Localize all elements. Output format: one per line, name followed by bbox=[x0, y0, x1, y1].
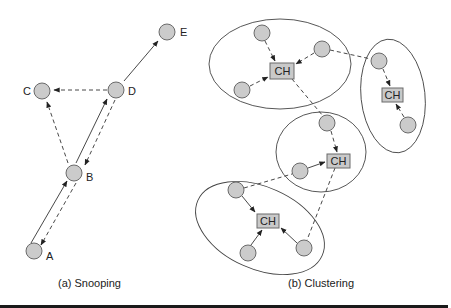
edge-bottom-n3-to-ch bbox=[281, 228, 297, 243]
edge-top-n1-to-ch bbox=[265, 41, 275, 61]
cluster-top-head-label: CH bbox=[275, 65, 291, 77]
node-a bbox=[26, 243, 42, 259]
edge-middle-n1-to-ch bbox=[331, 131, 337, 152]
cluster-bottom-head-label: CH bbox=[260, 215, 276, 227]
node-c bbox=[34, 83, 50, 99]
edge-a-to-b bbox=[31, 181, 67, 243]
cluster-middle-node-1 bbox=[319, 115, 335, 131]
cluster-bottom-node-3 bbox=[296, 240, 312, 256]
node-c-label: C bbox=[23, 85, 31, 97]
cluster-bottom-node-2 bbox=[240, 245, 256, 261]
cluster-right-head-label: CH bbox=[385, 89, 401, 101]
edge-b-to-d bbox=[76, 99, 107, 163]
edge-b-to-a bbox=[41, 183, 76, 245]
link-bottom-to-middle bbox=[244, 174, 292, 188]
cluster-top-node-2 bbox=[314, 41, 330, 57]
clustering-diagram: CH CH CH CH (b) Clustering bbox=[181, 19, 431, 293]
edge-b-to-c bbox=[47, 102, 68, 163]
edge-bottom-n1-to-ch bbox=[242, 196, 255, 212]
cluster-right-node-1 bbox=[371, 53, 387, 69]
edge-top-n2-to-ch bbox=[296, 53, 314, 64]
caption-clustering: (b) Clustering bbox=[288, 277, 354, 289]
node-b bbox=[66, 165, 82, 181]
cluster-top-node-1 bbox=[254, 25, 270, 41]
edge-d-to-b bbox=[85, 100, 115, 165]
cluster-top-node-3 bbox=[234, 82, 250, 98]
edge-d-to-e bbox=[124, 41, 158, 81]
link-top-ch-to-middle bbox=[292, 79, 323, 116]
edge-middle-n2-to-ch bbox=[308, 162, 325, 168]
cluster-middle-head-label: CH bbox=[331, 155, 347, 167]
node-b-label: B bbox=[86, 171, 93, 183]
snooping-diagram: A B C D E (a) Snooping bbox=[23, 24, 187, 289]
edge-top-n3-to-ch bbox=[250, 77, 268, 86]
node-e-label: E bbox=[180, 26, 187, 38]
cluster-right-node-2 bbox=[400, 117, 416, 133]
network-diagram: A B C D E (a) Snooping CH CH bbox=[0, 0, 451, 308]
cluster-bottom-node-1 bbox=[228, 182, 244, 198]
node-d-label: D bbox=[128, 85, 136, 97]
edge-bottom-n2-to-ch bbox=[251, 230, 262, 245]
node-e bbox=[159, 24, 175, 40]
caption-snooping: (a) Snooping bbox=[58, 277, 121, 289]
node-a-label: A bbox=[46, 250, 54, 262]
edge-right-n1-to-ch bbox=[383, 69, 390, 86]
node-d bbox=[108, 82, 124, 98]
cluster-middle-node-2 bbox=[292, 163, 308, 179]
edge-right-n2-to-ch bbox=[396, 104, 404, 117]
